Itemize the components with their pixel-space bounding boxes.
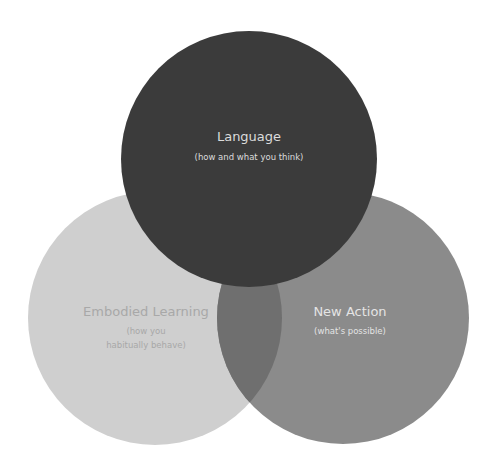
- language-subtitle: (how and what you think): [195, 152, 304, 162]
- new-action-subtitle: (what's possible): [314, 326, 386, 336]
- new-action-title: New Action: [313, 304, 386, 319]
- embodied-learning-subtitle-line-1: (how you: [126, 326, 165, 336]
- language-title: Language: [217, 129, 281, 144]
- venn-diagram: Language (how and what you think) Embodi…: [0, 0, 502, 467]
- embodied-learning-title: Embodied Learning: [83, 304, 209, 319]
- embodied-learning-subtitle-line-2: habitually behave): [106, 340, 186, 350]
